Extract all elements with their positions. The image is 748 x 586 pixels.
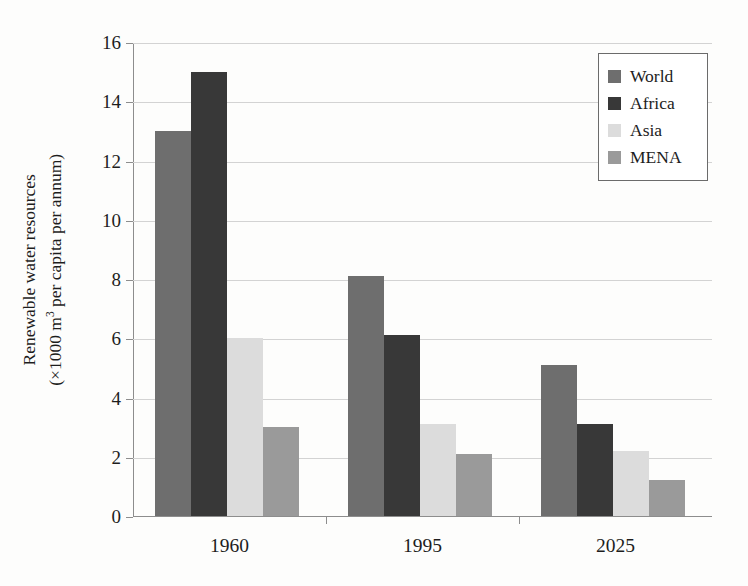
bar-africa-2025: [577, 424, 613, 516]
y-tick-mark: [126, 221, 133, 222]
legend-swatch-asia: [608, 124, 621, 137]
y-axis-title-line2-suffix: per capita per annum): [45, 154, 65, 311]
bar-mena-1995: [456, 454, 492, 516]
chart-figure: Renewable water resources (×1000 m3 per …: [0, 0, 748, 586]
gridline: [133, 43, 712, 44]
bar-mena-2025: [649, 480, 685, 516]
x-tick-label-2025: 2025: [596, 535, 635, 557]
bar-asia-1995: [420, 424, 456, 516]
y-axis-title-line2: (×1000 m3 per capita per annum): [43, 154, 69, 386]
y-tick-mark: [126, 280, 133, 281]
y-tick-mark: [126, 458, 133, 459]
legend-label-africa: Africa: [630, 93, 675, 114]
legend-swatch-mena: [608, 151, 621, 164]
y-tick-mark: [126, 43, 133, 44]
y-tick-mark: [126, 399, 133, 400]
x-axis-line: [133, 516, 712, 517]
legend-item-world: World: [608, 63, 699, 90]
bar-africa-1995: [384, 335, 420, 516]
chart-legend: WorldAfricaAsiaMENA: [598, 53, 708, 181]
bar-world-1960: [155, 131, 191, 516]
y-tick-label: 16: [102, 32, 121, 54]
legend-item-mena: MENA: [608, 144, 699, 171]
legend-label-asia: Asia: [630, 120, 662, 141]
legend-item-asia: Asia: [608, 117, 699, 144]
legend-item-africa: Africa: [608, 90, 699, 117]
y-tick-label: 0: [112, 506, 122, 528]
legend-swatch-world: [608, 70, 621, 83]
x-tick-label-1995: 1995: [403, 535, 442, 557]
y-axis-title-line2-prefix: (×1000 m: [45, 317, 65, 386]
y-tick-label: 6: [112, 328, 122, 350]
bar-asia-2025: [613, 451, 649, 516]
y-tick-label: 8: [112, 269, 122, 291]
y-tick-label: 2: [112, 447, 122, 469]
y-tick-mark: [126, 517, 133, 518]
y-tick-label: 12: [102, 151, 121, 173]
legend-swatch-africa: [608, 97, 621, 110]
y-tick-label: 4: [112, 388, 122, 410]
x-tick-mark: [326, 517, 327, 524]
x-tick-mark: [519, 517, 520, 524]
y-axis-title-line1: Renewable water resources: [19, 174, 39, 365]
y-axis-title: Renewable water resources (×1000 m3 per …: [0, 0, 86, 540]
y-tick-mark: [126, 162, 133, 163]
bar-asia-1960: [227, 338, 263, 516]
bar-world-1995: [348, 276, 384, 516]
y-axis-title-superscript: 3: [45, 311, 57, 317]
y-tick-mark: [126, 102, 133, 103]
legend-label-mena: MENA: [630, 147, 682, 168]
bar-africa-1960: [191, 72, 227, 516]
legend-label-world: World: [630, 66, 673, 87]
bar-world-2025: [541, 365, 577, 516]
y-tick-label: 10: [102, 210, 121, 232]
x-tick-label-1960: 1960: [210, 535, 249, 557]
y-tick-mark: [126, 339, 133, 340]
y-tick-label: 14: [102, 91, 121, 113]
bar-mena-1960: [263, 427, 299, 516]
